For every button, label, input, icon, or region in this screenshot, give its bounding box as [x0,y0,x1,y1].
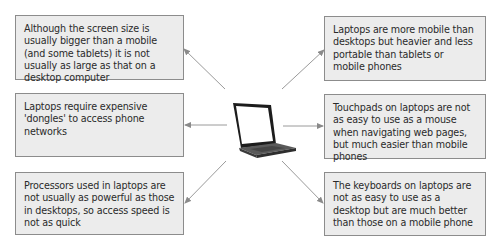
note-text: Laptops require expensive 'dongles' to a… [24,101,147,137]
note-box-middle-right: Touchpads on laptops are not as easy to … [324,94,486,159]
note-text: Laptops are more mobile than desktops bu… [333,24,474,72]
arrow-top-right [282,50,324,89]
note-box-bottom-left: Processors used in laptops are not usual… [15,172,184,235]
note-text: Processors used in laptops are not usual… [24,180,174,228]
note-box-top-right: Laptops are more mobile than desktops bu… [324,16,486,81]
note-text: The keyboards on laptops are not as easy… [333,180,473,228]
arrow-bottom-left [185,161,226,203]
note-text: Although the screen size is usually bigg… [24,23,157,83]
arrow-top-left [184,49,225,89]
laptop-icon [233,103,296,158]
note-box-top-left: Although the screen size is usually bigg… [15,15,184,80]
note-box-middle-left: Laptops require expensive 'dongles' to a… [15,93,184,157]
arrow-bottom-right [282,161,323,203]
note-box-bottom-right: The keyboards on laptops are not as easy… [324,172,486,236]
note-text: Touchpads on laptops are not as easy to … [333,102,470,162]
